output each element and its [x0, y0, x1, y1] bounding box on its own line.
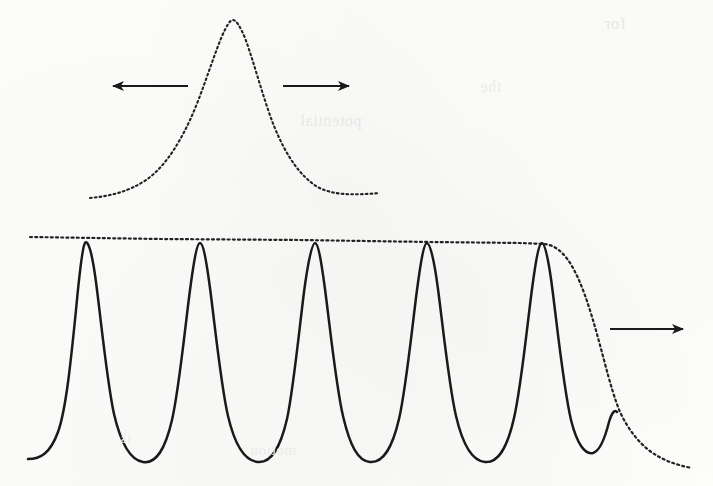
carrier-wave-solid-path	[28, 242, 617, 462]
figure-canvas	[0, 0, 713, 486]
gaussian-envelope-packet-path	[90, 20, 380, 198]
modulation-envelope-dotted-path	[30, 237, 692, 468]
wave-packet-figure: for the potential is motion	[0, 0, 713, 486]
